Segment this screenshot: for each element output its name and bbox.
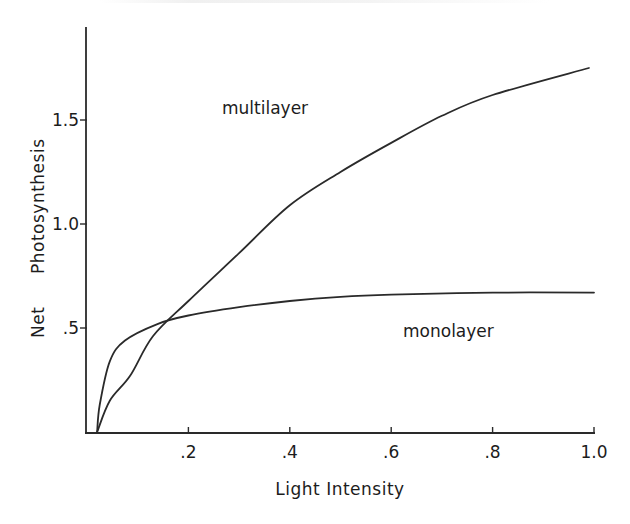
y-tick-label: .5 — [63, 318, 79, 338]
monolayer-curve — [97, 292, 594, 432]
series-curves — [97, 68, 594, 432]
monolayer-label: monolayer — [403, 321, 494, 341]
x-tick-label: 1.0 — [580, 442, 607, 462]
y-axis-title: Net Photosynthesis — [28, 138, 48, 338]
x-tick-label: .8 — [484, 442, 500, 462]
y-tick-label: 1.5 — [52, 110, 79, 130]
x-tick-label: .2 — [180, 442, 196, 462]
multilayer-label: multilayer — [222, 98, 308, 118]
x-tick-label: .4 — [282, 442, 298, 462]
y-axis-title-word-photosynthesis: Photosynthesis — [28, 138, 48, 274]
x-tick-label: .6 — [383, 442, 399, 462]
y-ticks: .51.01.5 — [52, 110, 87, 338]
line-chart: .2.4.6.81.0 .51.01.5 multilayer monolaye… — [0, 0, 630, 524]
multilayer-curve — [97, 68, 589, 432]
y-tick-label: 1.0 — [52, 214, 79, 234]
y-axis-title-word-net: Net — [28, 307, 48, 338]
x-axis-title: Light Intensity — [275, 479, 404, 499]
